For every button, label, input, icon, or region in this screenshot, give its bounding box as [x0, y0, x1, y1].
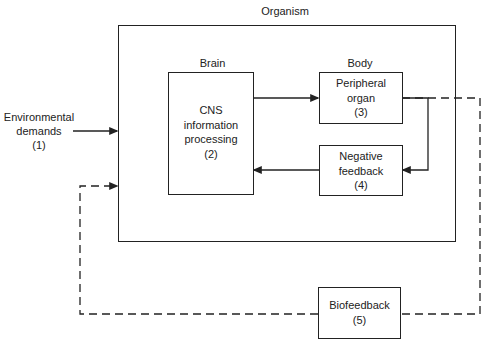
negative-feedback-label: Negative feedback (4)	[320, 149, 402, 193]
negative-feedback-box: Negative feedback (4)	[319, 145, 403, 196]
cns-box: CNS information processing (2)	[168, 72, 254, 195]
peripheral-organ-box: Peripheral organ (3)	[319, 72, 403, 124]
peripheral-organ-label: Peripheral organ (3)	[320, 76, 402, 120]
body-label: Body	[340, 56, 380, 70]
biofeedback-label: Biofeedback (5)	[319, 298, 400, 327]
organism-label: Organism	[250, 4, 320, 18]
environmental-demands-label: Environmental demands (1)	[2, 110, 76, 152]
biofeedback-box: Biofeedback (5)	[318, 287, 401, 339]
cns-label: CNS information processing (2)	[169, 103, 253, 161]
brain-label: Brain	[185, 56, 240, 70]
